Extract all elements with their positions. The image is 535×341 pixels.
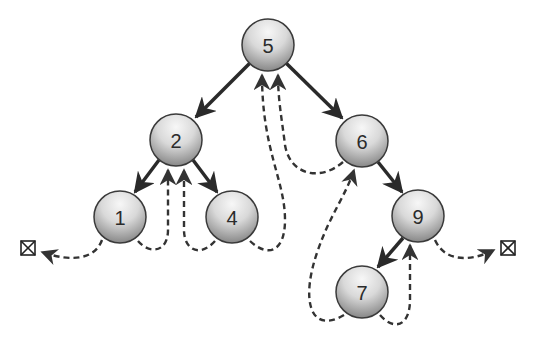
node-label: 9	[412, 206, 423, 228]
edge-9-7	[378, 238, 403, 267]
edge-5-6	[286, 63, 342, 118]
edge-5-2	[196, 63, 250, 117]
node-2: 2	[150, 114, 202, 166]
node-1: 1	[94, 191, 146, 243]
node-9: 9	[392, 190, 444, 242]
node-label: 4	[226, 207, 237, 229]
threaded-tree-diagram: 5 2 6 1 4 9 7	[0, 0, 535, 341]
node-label: 5	[262, 35, 273, 57]
node-6: 6	[336, 115, 388, 167]
node-4: 4	[206, 191, 258, 243]
node-label: 7	[356, 282, 367, 304]
thread-9-nil	[435, 240, 494, 258]
node-label: 2	[170, 130, 181, 152]
node-label: 6	[356, 131, 367, 153]
tree-nodes: 5 2 6 1 4 9 7	[94, 19, 444, 318]
node-5: 5	[242, 19, 294, 71]
node-7: 7	[336, 266, 388, 318]
node-label: 1	[114, 207, 125, 229]
nil-marker-right	[501, 241, 515, 255]
edge-2-4	[193, 160, 217, 192]
thread-6-5	[278, 75, 343, 173]
edge-2-1	[135, 160, 159, 192]
edge-6-9	[378, 162, 402, 192]
thread-1-nil	[42, 240, 102, 258]
nil-marker-left	[21, 241, 35, 255]
